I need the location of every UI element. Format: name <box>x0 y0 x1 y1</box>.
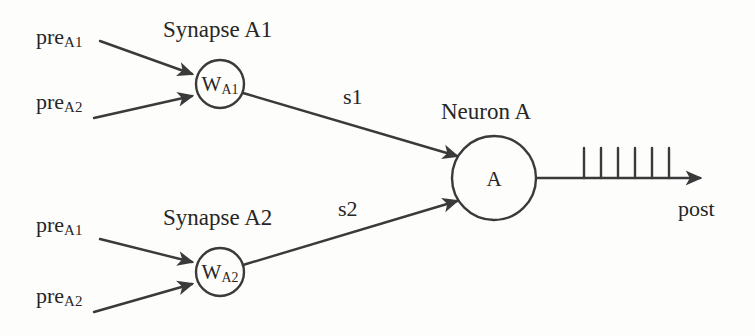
pre-subscript-a1: A1 <box>64 222 83 238</box>
synapse-a2-title: Synapse A2 <box>163 206 272 229</box>
spike-train <box>584 148 669 178</box>
input-label-pre-a2-bottom: preA2 <box>36 285 83 309</box>
pre-base-text: pre <box>36 24 64 49</box>
weight-base-text: W <box>202 72 222 96</box>
edge-pre-a2-to-synapse-a1 <box>94 96 192 118</box>
pre-subscript-a2: A2 <box>64 99 83 115</box>
signal-label-s1: s1 <box>343 86 363 108</box>
synapse-a1-weight-label: WA1 <box>202 72 239 98</box>
neuron-a-body-label: A <box>486 167 501 192</box>
input-label-pre-a1-bottom: preA1 <box>36 214 83 238</box>
weight-subscript-a2: A2 <box>221 270 238 285</box>
synapse-a1-title: Synapse A1 <box>163 18 272 41</box>
edge-pre-a1-to-synapse-a2 <box>100 239 192 262</box>
input-label-pre-a1-top: preA1 <box>36 26 83 50</box>
pre-subscript-a2: A2 <box>64 293 83 309</box>
diagram-canvas: Synapse A1 Synapse A2 Neuron A s1 s2 pos… <box>0 0 755 336</box>
pre-base-text: pre <box>36 89 64 114</box>
edge-pre-a2-to-synapse-a2 <box>94 284 192 312</box>
edge-pre-a1-to-synapse-a1 <box>100 41 192 74</box>
weight-base-text: W <box>202 260 222 284</box>
synapse-a2-weight-label: WA2 <box>202 260 239 286</box>
signal-label-s2: s2 <box>338 198 358 220</box>
pre-base-text: pre <box>36 283 64 308</box>
pre-base-text: pre <box>36 212 64 237</box>
pre-subscript-a1: A1 <box>64 34 83 50</box>
weight-subscript-a1: A1 <box>221 82 238 97</box>
input-label-pre-a2-top: preA2 <box>36 91 83 115</box>
neuron-a-title: Neuron A <box>441 100 531 123</box>
output-label-post: post <box>678 198 715 220</box>
diagram-vector-layer <box>0 0 755 336</box>
